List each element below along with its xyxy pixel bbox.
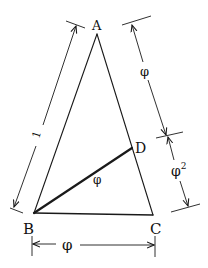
- dimension-ab: [10, 21, 85, 213]
- triangle-abc: [34, 34, 153, 215]
- dimension-ab-line: [43, 26, 76, 125]
- dimension-ad-line-upper: [132, 25, 143, 62]
- side-ac: [97, 34, 153, 215]
- dimension-dc-tick-bottom: [171, 204, 200, 212]
- dimension-ad-line-lower: [148, 80, 166, 135]
- dimension-adc: [122, 16, 200, 212]
- golden-triangle-diagram: A B C D φ 1 φ φ2 φ: [0, 0, 208, 268]
- dimension-bc: [32, 236, 155, 257]
- vertex-label-c: C: [150, 220, 161, 238]
- dimension-dc-line-lower: [180, 181, 188, 206]
- dimension-d-tick-mid: [156, 132, 183, 138]
- side-bc: [34, 213, 153, 215]
- dimension-dc-line-upper: [168, 137, 174, 160]
- dimension-dc-phi: φ: [171, 163, 181, 179]
- dimension-bc-label: φ: [62, 236, 73, 254]
- dimension-ab-label: 1: [29, 129, 44, 140]
- vertex-label-a: A: [91, 18, 102, 33]
- vertex-label-b: B: [23, 220, 34, 238]
- dimension-dc-label: φ2: [171, 161, 187, 179]
- segment-bd: [34, 148, 132, 213]
- dimension-dc-exponent: 2: [181, 161, 187, 171]
- segment-bd-label: φ: [93, 173, 101, 187]
- vertex-label-d: D: [135, 140, 146, 156]
- dimension-ad-tick-top: [122, 16, 151, 25]
- dimension-ad-label: φ: [140, 64, 149, 79]
- dimension-ab-line-lower: [14, 146, 36, 207]
- dimension-ab-tick-bottom: [10, 208, 23, 213]
